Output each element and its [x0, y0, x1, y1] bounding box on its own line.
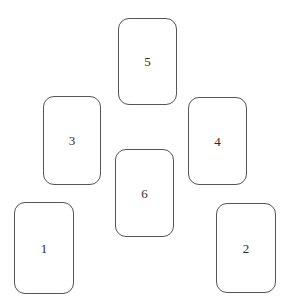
card-label: 2 [243, 242, 250, 255]
card-5[interactable]: 5 [118, 18, 177, 105]
card-2[interactable]: 2 [216, 203, 276, 293]
card-1[interactable]: 1 [14, 202, 74, 294]
card-canvas: 123456 [0, 0, 288, 307]
card-6[interactable]: 6 [115, 149, 174, 237]
card-label: 1 [41, 242, 48, 255]
card-label: 4 [214, 135, 221, 148]
card-3[interactable]: 3 [43, 96, 101, 185]
card-label: 6 [141, 187, 148, 200]
card-4[interactable]: 4 [188, 97, 247, 185]
card-label: 5 [144, 55, 151, 68]
card-label: 3 [69, 134, 76, 147]
